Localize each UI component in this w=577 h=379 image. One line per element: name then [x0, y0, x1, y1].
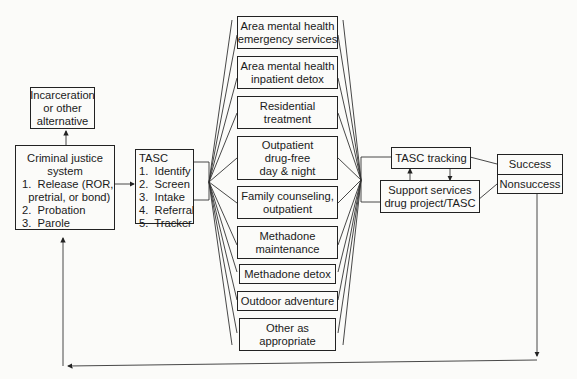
tasc-item-5: 5. Tracker	[139, 217, 192, 230]
service-line: Residential	[260, 100, 315, 113]
service-line: day & night	[260, 165, 316, 178]
service-line: inpatient detox	[251, 73, 324, 86]
support-line: drug project/TASC	[384, 197, 475, 210]
incarceration-line-1: Incarceration	[30, 89, 95, 102]
criminal-justice-box: Criminal justice system 1. Release (ROR,…	[15, 145, 115, 230]
tasc-box: TASC 1. Identify 2. Screen 3. Intake 4. …	[135, 149, 194, 224]
incarceration-line-2: or other	[43, 102, 82, 115]
nonsuccess-label: Nonsuccess	[500, 178, 561, 191]
incarceration-line-3: alternative	[37, 115, 89, 128]
success-box: Success	[497, 154, 563, 175]
cjs-item-3: 2. Probation	[22, 204, 113, 217]
cjs-item-2: pretrial, or bond)	[22, 191, 113, 204]
cjs-item-1: 1. Release (ROR,	[22, 178, 113, 191]
service-line: Area mental health	[241, 60, 335, 73]
service-residential-treatment: Residential treatment	[237, 96, 338, 129]
support-line: Support services	[388, 184, 471, 197]
service-line: drug-free	[265, 152, 310, 165]
service-line: Methadone	[260, 230, 316, 243]
tasc-item-4: 4. Referral	[139, 204, 194, 217]
tasc-title: TASC	[139, 152, 168, 165]
tasc-item-1: 1. Identify	[139, 165, 191, 178]
nonsuccess-box: Nonsuccess	[497, 174, 563, 194]
service-line: Other as	[266, 322, 309, 335]
service-line: outpatient	[263, 203, 312, 216]
service-line: maintenance	[255, 243, 319, 256]
cjs-item-4: 3. Parole	[22, 217, 113, 230]
success-label: Success	[509, 158, 551, 171]
tasc-item-2: 2. Screen	[139, 178, 190, 191]
service-line: treatment	[264, 113, 311, 126]
tasc-tracking-label: TASC tracking	[395, 152, 466, 165]
service-line: Family counseling,	[241, 190, 334, 203]
cjs-title-2: system	[47, 165, 82, 178]
service-line: Outpatient	[262, 139, 314, 152]
incarceration-box: Incarceration or other alternative	[30, 87, 95, 129]
support-services-box: Support services drug project/TASC	[380, 180, 480, 213]
cjs-title-1: Criminal justice	[27, 152, 103, 165]
service-area-mh-inpatient-detox: Area mental health inpatient detox	[237, 56, 338, 89]
service-line: Area mental health	[241, 20, 335, 33]
service-methadone-detox: Methadone detox	[239, 264, 336, 284]
tasc-item-3: 3. Intake	[139, 191, 185, 204]
service-family-counseling: Family counseling, outpatient	[237, 186, 338, 219]
service-outdoor-adventure: Outdoor adventure	[237, 291, 338, 311]
service-line: appropriate	[259, 335, 316, 348]
service-line: Outdoor adventure	[241, 295, 334, 308]
service-methadone-maintenance: Methadone maintenance	[237, 226, 338, 259]
service-area-mh-emergency: Area mental health emergency services	[237, 16, 338, 49]
tasc-tracking-box: TASC tracking	[391, 147, 471, 169]
service-line: Methadone detox	[244, 268, 330, 281]
service-line: emergency services	[238, 33, 337, 46]
service-outpatient-drug-free: Outpatient drug-free day & night	[237, 136, 338, 180]
service-other-as-appropriate: Other as appropriate	[239, 318, 336, 351]
